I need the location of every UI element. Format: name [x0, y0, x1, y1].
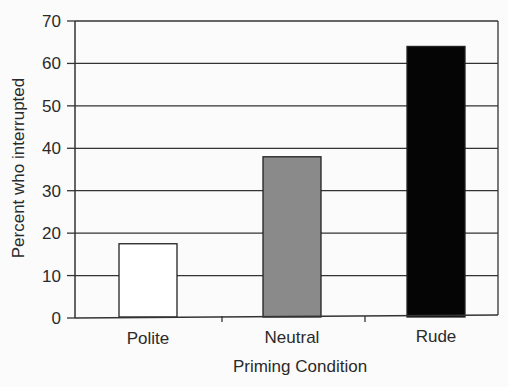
x-category-label: Polite: [127, 329, 170, 348]
y-tick-label: 60: [42, 54, 61, 73]
x-category-label: Neutral: [265, 328, 320, 347]
bar-polite: [119, 244, 177, 317]
bar-rude: [407, 46, 465, 317]
y-axis-title: Percent who interrupted: [9, 78, 28, 259]
y-tick-label: 50: [42, 97, 61, 116]
y-tick-label: 70: [42, 12, 61, 31]
x-category-labels: PoliteNeutralRude: [127, 327, 457, 348]
y-tick-labels: 010203040506070: [42, 12, 61, 328]
y-tick-label: 20: [42, 224, 61, 243]
x-category-label: Rude: [416, 327, 457, 346]
x-axis-title: Priming Condition: [233, 357, 367, 376]
bars: [119, 46, 465, 317]
bar-chart: 010203040506070 PoliteNeutralRude Primin…: [0, 0, 508, 387]
y-tick-label: 10: [42, 267, 61, 286]
y-tick-label: 0: [52, 309, 61, 328]
y-tick-label: 30: [42, 182, 61, 201]
y-tick-label: 40: [42, 139, 61, 158]
bar-neutral: [263, 157, 321, 317]
